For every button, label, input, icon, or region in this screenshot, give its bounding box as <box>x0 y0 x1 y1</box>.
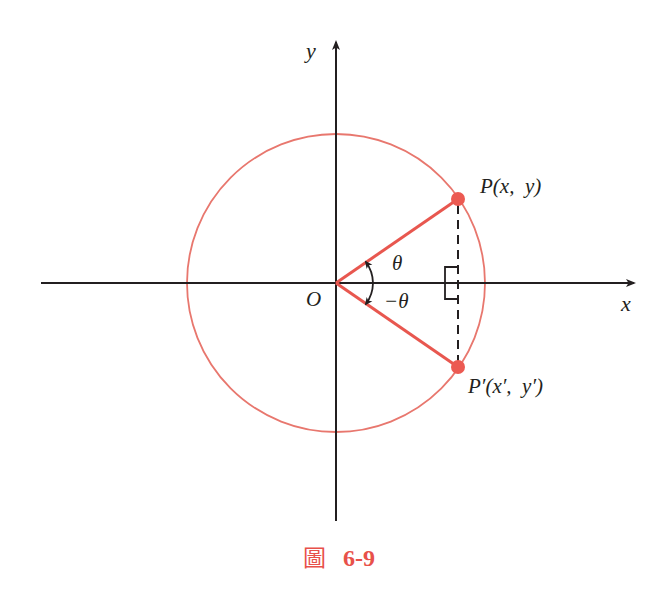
caption-number: 6-9 <box>343 545 375 571</box>
x-axis-label: x <box>620 291 631 316</box>
figure-6-9: y x O P(x, y) P′(x′, y′) θ −θ 圖 6-9 <box>0 0 667 606</box>
point-P-prime <box>451 360 465 374</box>
point-P-prime-label: P′(x′, y′) <box>467 374 543 398</box>
point-P <box>451 192 465 206</box>
neg-theta-label: −θ <box>384 289 409 313</box>
theta-arc-icon <box>366 262 373 283</box>
theta-label: θ <box>392 251 402 275</box>
y-axis-label: y <box>304 38 316 63</box>
origin-label: O <box>306 287 321 311</box>
neg-theta-arc-icon <box>366 283 373 304</box>
caption-prefix: 圖 <box>303 545 326 571</box>
point-P-label: P(x, y) <box>479 174 541 198</box>
